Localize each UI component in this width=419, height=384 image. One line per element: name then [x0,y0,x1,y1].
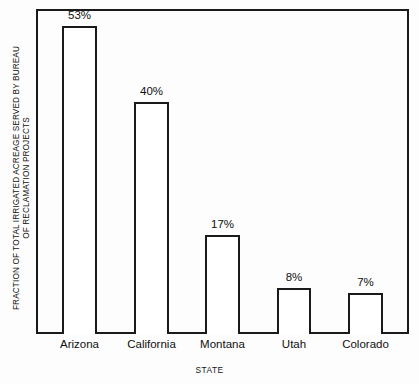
bar-value-label-montana: 17% [193,218,253,230]
bar-california [134,102,169,334]
bar-chart: FRACTION OF TOTAL IRRIGATED ACREAGE SERV… [0,0,419,384]
bar-montana [205,235,240,334]
bar-utah [277,288,311,334]
bar-value-label-utah: 8% [264,271,324,283]
x-axis-title: STATE [0,365,419,375]
x-axis-category-labels: ArizonaCaliforniaMontanaUtahColorado [36,338,409,358]
bar-arizona [62,26,97,334]
bar-value-label-arizona: 53% [50,9,110,21]
x-axis-label-colorado: Colorado [321,338,411,350]
bar-colorado [348,293,383,334]
bar-value-label-colorado: 7% [336,276,396,288]
bars-layer: 53%40%17%8%7% [36,9,409,334]
y-axis-title-line-2: OF RECLAMATION PROJECTS [22,117,32,239]
bar-value-label-california: 40% [122,85,182,97]
y-axis-title-line-1: FRACTION OF TOTAL IRRIGATED ACREAGE SERV… [12,46,22,310]
y-axis-title: FRACTION OF TOTAL IRRIGATED ACREAGE SERV… [8,18,36,338]
